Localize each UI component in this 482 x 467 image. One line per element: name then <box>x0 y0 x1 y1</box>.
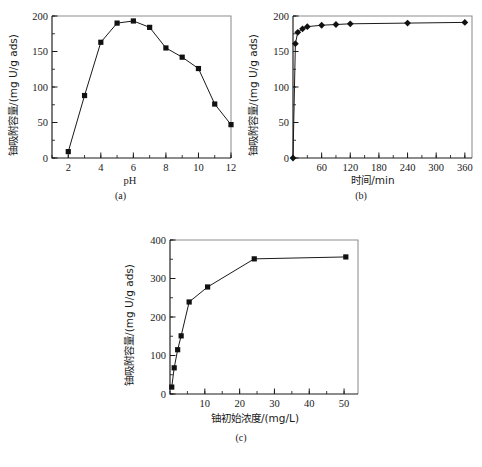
chart-svg-a: 24681012050100150200 pH 铀吸附容量/(mg U/g ad… <box>0 0 241 188</box>
data-point-marker <box>172 365 177 370</box>
y-tick-label: 100 <box>273 82 289 93</box>
x-tick-label: 180 <box>371 162 387 173</box>
figure-container: 24681012050100150200 pH 铀吸附容量/(mg U/g ad… <box>0 0 482 467</box>
x-tick-label: 240 <box>400 162 416 173</box>
data-point-marker <box>318 22 325 29</box>
panel-caption-a: (a) <box>0 190 241 201</box>
x-axis-label-a: pH <box>124 175 137 186</box>
panel-caption-b: (b) <box>240 190 482 201</box>
chart-panel-b: 60120180240300360050100150200 时间/min 铀吸附… <box>240 0 482 188</box>
data-point-marker <box>187 299 192 304</box>
x-tick-label: 4 <box>98 162 104 173</box>
y-tick-label: 400 <box>150 235 166 246</box>
x-tick-label: 2 <box>66 162 71 173</box>
y-tick-label: 200 <box>150 312 166 323</box>
y-tick-label: 300 <box>150 273 166 284</box>
data-line <box>68 21 231 152</box>
data-point-marker <box>228 122 233 127</box>
y-tick-label: 100 <box>150 350 166 361</box>
axis-tick-labels-b: 60120180240300360050100150200 <box>273 11 472 173</box>
y-tick-label: 0 <box>43 153 48 164</box>
data-point-marker <box>131 18 136 23</box>
y-tick-label: 150 <box>32 46 48 57</box>
x-axis-label-b: 时间/min <box>351 174 394 186</box>
axis-tick-labels-c: 10203040500100200300400 <box>150 235 349 409</box>
data-point-marker <box>175 347 180 352</box>
x-tick-label: 120 <box>342 162 358 173</box>
x-tick-label: 30 <box>269 398 280 409</box>
y-tick-label: 100 <box>32 82 48 93</box>
data-series-b <box>290 19 469 161</box>
y-axis-label-b: 铀吸附容量/(mg U/g ads) <box>247 34 259 156</box>
data-point-marker <box>404 20 411 27</box>
data-point-marker <box>147 25 152 30</box>
x-tick-label: 360 <box>457 162 473 173</box>
x-tick-label: 8 <box>163 162 168 173</box>
y-tick-label: 150 <box>273 46 289 57</box>
data-point-marker <box>196 66 201 71</box>
x-tick-label: 12 <box>226 162 237 173</box>
y-tick-label: 0 <box>284 153 289 164</box>
chart-svg-b: 60120180240300360050100150200 时间/min 铀吸附… <box>240 0 482 188</box>
data-point-marker <box>114 21 119 26</box>
data-point-marker <box>163 45 168 50</box>
data-point-marker <box>205 284 210 289</box>
chart-panel-c: 10203040500100200300400 铀初始浓度/(mg/L) 铀吸附… <box>110 222 372 430</box>
plot-frame-c <box>170 240 358 394</box>
data-series-c <box>169 254 348 389</box>
data-line <box>293 22 465 158</box>
data-point-marker <box>179 333 184 338</box>
data-series-a <box>66 18 234 154</box>
axis-ticks-b <box>293 16 465 158</box>
x-tick-label: 300 <box>428 162 444 173</box>
x-tick-label: 6 <box>131 162 136 173</box>
data-point-marker <box>82 93 87 98</box>
data-point-marker <box>252 256 257 261</box>
plot-frame-a <box>52 16 231 158</box>
axis-ticks-c <box>170 240 344 394</box>
data-line <box>172 257 346 387</box>
chart-panel-a: 24681012050100150200 pH 铀吸附容量/(mg U/g ad… <box>0 0 241 188</box>
data-point-marker <box>290 155 297 162</box>
data-point-marker <box>343 254 348 259</box>
y-tick-label: 200 <box>32 11 48 22</box>
plot-frame-b <box>293 16 472 158</box>
y-tick-label: 50 <box>279 117 290 128</box>
x-tick-label: 50 <box>339 398 350 409</box>
axis-ticks-a <box>52 16 231 158</box>
data-point-marker <box>98 40 103 45</box>
data-point-marker <box>347 20 354 27</box>
x-axis-label-c: 铀初始浓度/(mg/L) <box>211 412 299 424</box>
data-point-marker <box>169 384 174 389</box>
x-tick-label: 60 <box>316 162 327 173</box>
x-tick-label: 10 <box>200 398 211 409</box>
y-tick-label: 200 <box>273 11 289 22</box>
data-point-marker <box>212 101 217 106</box>
data-point-marker <box>66 149 71 154</box>
y-axis-label-a: 铀吸附容量/(mg U/g ads) <box>7 34 19 156</box>
x-tick-label: 20 <box>234 398 245 409</box>
panel-caption-c: (c) <box>110 432 372 443</box>
chart-svg-c: 10203040500100200300400 铀初始浓度/(mg/L) 铀吸附… <box>110 222 372 430</box>
x-tick-label: 40 <box>304 398 315 409</box>
y-axis-label-c: 铀吸附容量/(mg U/g ads) <box>123 264 135 386</box>
data-point-marker <box>461 19 468 26</box>
page-text-sliver <box>0 458 482 467</box>
data-point-marker <box>333 21 340 28</box>
y-tick-label: 50 <box>38 117 49 128</box>
data-point-marker <box>180 55 185 60</box>
y-tick-label: 0 <box>161 389 166 400</box>
x-tick-label: 10 <box>193 162 204 173</box>
axis-tick-labels-a: 24681012050100150200 <box>32 11 236 173</box>
